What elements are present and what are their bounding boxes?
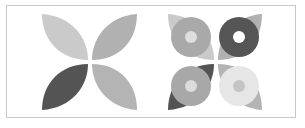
left-petal-bottom-left — [42, 64, 88, 110]
left-petal-bottom-right — [92, 64, 137, 110]
ring-hole-bottom-right — [233, 80, 245, 92]
ring-hole-bottom-left — [185, 80, 197, 92]
left-petal-top-left — [42, 14, 88, 60]
ring-hole-top-right — [233, 31, 245, 43]
left-flower — [42, 14, 137, 110]
right-flower — [168, 14, 262, 110]
left-petal-top-right — [92, 14, 137, 60]
figure-canvas — [0, 0, 305, 128]
ring-hole-top-left — [185, 31, 197, 43]
